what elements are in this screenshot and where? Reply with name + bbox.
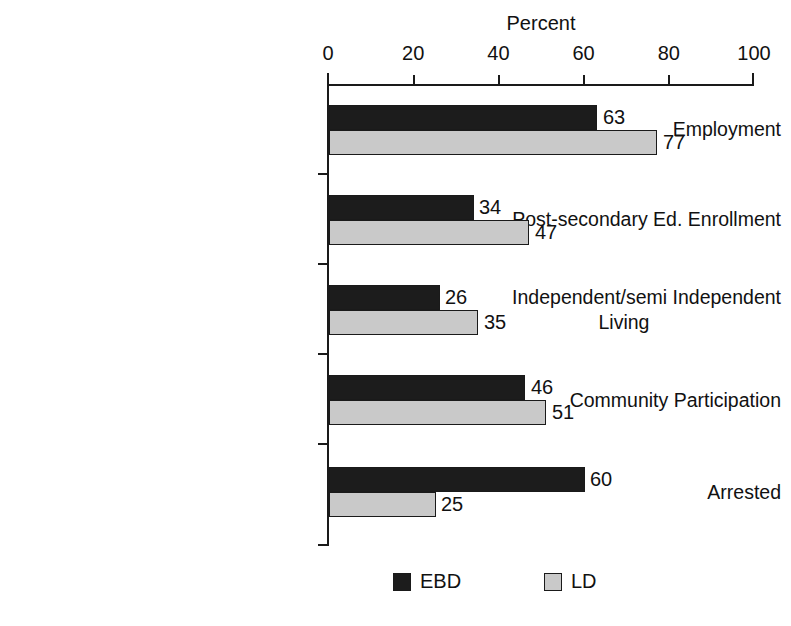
x-axis-tick-labels: 0 20 40 60 80 100 <box>328 42 754 66</box>
bar-ebd-arrested[interactable] <box>329 467 585 492</box>
bar-value-ebd-community-participation: 46 <box>531 375 553 400</box>
bar-value-ld-arrested: 25 <box>441 492 463 517</box>
bar-ld-employment[interactable] <box>329 130 657 155</box>
chart-legend: EBD LD <box>329 570 755 600</box>
y-tick-mark-1 <box>318 173 328 175</box>
bar-ebd-independent-semi-independent-living[interactable] <box>329 285 440 310</box>
x-tick-label-40: 40 <box>487 42 509 65</box>
legend-item-ebd[interactable]: EBD <box>393 570 461 593</box>
legend-label-ld: LD <box>571 570 597 593</box>
legend-item-ld[interactable]: LD <box>544 570 597 593</box>
bar-value-ebd-arrested: 60 <box>590 467 612 492</box>
y-tick-mark-4 <box>318 443 328 445</box>
x-tick-label-0: 0 <box>322 42 333 65</box>
bar-ld-independent-semi-independent-living[interactable] <box>329 310 478 335</box>
dark-square-swatch-icon <box>393 573 411 591</box>
bar-ebd-post-secondary-ed-enrollment[interactable] <box>329 195 474 220</box>
chart-title: Percent <box>328 12 754 35</box>
x-tick-label-60: 60 <box>572 42 594 65</box>
x-tick-label-20: 20 <box>402 42 424 65</box>
legend-label-ebd: EBD <box>420 570 461 593</box>
bar-value-ebd-employment: 63 <box>603 105 625 130</box>
bar-chart: Percent 0 20 40 60 80 100 Employment Pos… <box>0 0 791 626</box>
bar-value-ebd-post-secondary-ed-enrollment: 34 <box>479 195 501 220</box>
bar-value-ebd-independent-semi-independent-living: 26 <box>445 285 467 310</box>
bar-ebd-employment[interactable] <box>329 105 597 130</box>
bar-ld-post-secondary-ed-enrollment[interactable] <box>329 220 529 245</box>
y-tick-mark-3 <box>318 353 328 355</box>
y-tick-mark-2 <box>318 263 328 265</box>
bar-value-ld-post-secondary-ed-enrollment: 47 <box>535 220 557 245</box>
bar-value-ld-community-participation: 51 <box>552 400 574 425</box>
bar-value-ld-independent-semi-independent-living: 35 <box>484 310 506 335</box>
x-tick-label-100: 100 <box>737 42 770 65</box>
bar-ebd-community-participation[interactable] <box>329 375 525 400</box>
bar-ld-community-participation[interactable] <box>329 400 546 425</box>
light-square-swatch-icon <box>544 573 562 591</box>
y-tick-mark-5 <box>318 544 328 546</box>
x-tick-label-80: 80 <box>658 42 680 65</box>
bar-value-ld-employment: 77 <box>663 130 685 155</box>
bar-ld-arrested[interactable] <box>329 492 436 517</box>
plot-area: 63 77 34 47 26 35 46 51 60 25 <box>329 84 755 546</box>
